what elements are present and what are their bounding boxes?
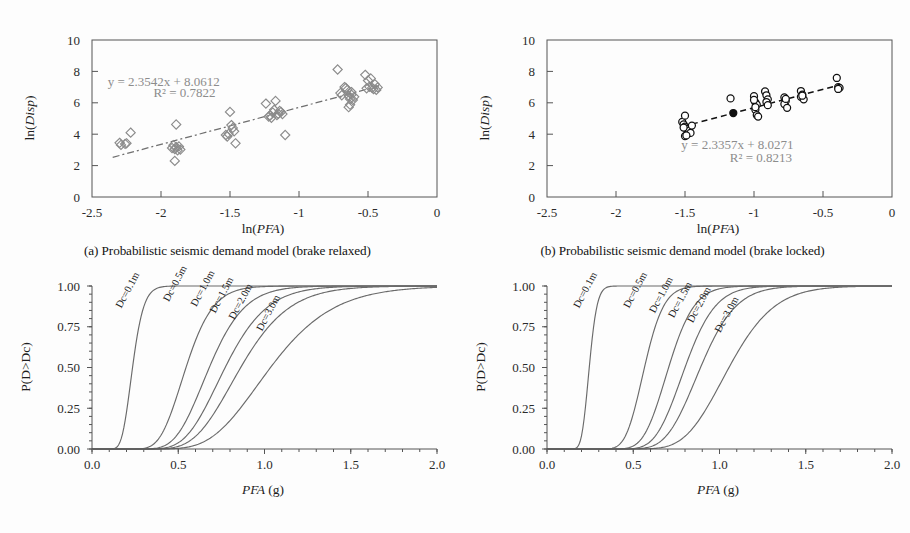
- scatter-marker-circle: [799, 92, 806, 99]
- x-tick-label: -1: [294, 205, 305, 220]
- panel-b-x-ticklabels: -2.5-2-1.5-1-0.50: [537, 205, 896, 220]
- panel-b-plot-frame: [547, 40, 892, 197]
- x-tick-label: 0.0: [539, 457, 555, 472]
- y-tick-label: 1.00: [512, 279, 535, 294]
- panel-a-y-ticklabels: 0246810: [67, 33, 81, 205]
- x-tick-label: 1.0: [711, 457, 727, 472]
- y-tick-label: 6: [529, 95, 536, 110]
- fragility-curve: [547, 286, 892, 449]
- y-tick-label: 0.00: [512, 442, 535, 457]
- panel-a-plot-frame: [92, 40, 437, 197]
- fragility-curve: [547, 286, 892, 449]
- x-tick-label: 0.0: [84, 457, 100, 472]
- panel-a-x-axis-title: ln(PFA): [242, 221, 285, 236]
- scatter-marker-circle: [751, 96, 758, 103]
- y-tick-label: 2: [529, 158, 536, 173]
- y-tick-label: 0.25: [57, 401, 80, 416]
- scatter-marker-diamond: [172, 120, 181, 129]
- x-tick-label: 0: [889, 205, 896, 220]
- panel-b-data-points: [679, 74, 843, 139]
- x-tick-label: 1.5: [798, 457, 814, 472]
- scatter-marker-diamond: [225, 107, 234, 116]
- x-tick-label: -1.5: [675, 205, 696, 220]
- panel-c-x-ticklabels: 0.00.51.01.52.0: [84, 457, 445, 472]
- panel-b-regression-line: [682, 85, 839, 127]
- x-tick-label: -1: [749, 205, 760, 220]
- y-tick-label: 8: [74, 64, 81, 79]
- fragility-curve: [547, 286, 892, 449]
- y-tick-label: 0: [74, 190, 81, 205]
- panel-d-fragility-brake-locked: 0.000.250.500.751.00 0.00.51.01.52.0 Dc=…: [455, 266, 910, 533]
- panel-d-chart: 0.000.250.500.751.00 0.00.51.01.52.0 Dc=…: [455, 266, 910, 516]
- y-tick-label: 0: [529, 190, 536, 205]
- figure-grid: 0246810 -2.5-2-1.5-1-0.50 y = 2.3542x + …: [0, 0, 910, 533]
- panel-a-y-axis-title: ln(Disp): [22, 95, 37, 140]
- x-tick-label: 2.0: [884, 457, 900, 472]
- y-tick-label: 4: [529, 127, 536, 142]
- panel-b-psdm-brake-locked: 0246810 -2.5-2-1.5-1-0.50 y = 2.3357x + …: [455, 0, 910, 266]
- panel-d-x-ticklabels: 0.00.51.01.52.0: [539, 457, 900, 472]
- x-tick-label: 0: [434, 205, 441, 220]
- y-tick-label: 0.50: [512, 360, 535, 375]
- x-tick-label: 0.5: [170, 457, 186, 472]
- panel-c-chart: 0.000.250.500.751.00 0.00.51.01.52.0 Dc=…: [0, 266, 455, 516]
- x-tick-label: -2.5: [82, 205, 103, 220]
- panel-c-y-axis-title: P(D>Dc): [18, 342, 33, 392]
- scatter-marker-diamond: [126, 128, 135, 137]
- scatter-marker-circle: [682, 112, 689, 119]
- scatter-marker-diamond: [231, 139, 240, 148]
- panel-c-curve-labels: Dc=0.1mDc=0.5mDc=1.0mDc=1.5mDc=2.0mDc=3.…: [113, 266, 282, 333]
- fragility-curve: [547, 286, 892, 449]
- y-tick-label: 0.50: [57, 360, 80, 375]
- panel-c-y-ticklabels: 0.000.250.500.751.00: [57, 279, 80, 457]
- panel-d-y-ticklabels: 0.000.250.500.751.00: [512, 279, 535, 457]
- y-tick-label: 6: [74, 95, 81, 110]
- x-tick-label: -1.5: [220, 205, 241, 220]
- panel-c-fragility-brake-relaxed: 0.000.250.500.751.00 0.00.51.01.52.0 Dc=…: [0, 266, 455, 533]
- y-tick-label: 0.25: [512, 401, 535, 416]
- x-tick-label: -0.5: [358, 205, 379, 220]
- scatter-marker-circle: [688, 122, 695, 129]
- y-tick-label: 2: [74, 158, 81, 173]
- scatter-marker-diamond: [170, 156, 179, 165]
- fragility-curve: [547, 286, 892, 449]
- scatter-marker-circle-filled: [730, 110, 737, 117]
- panel-a-caption: (a) Probabilistic seismic demand model (…: [0, 243, 455, 259]
- panel-d-x-axis-title: PFA (g): [696, 482, 739, 497]
- y-tick-label: 0.00: [57, 442, 80, 457]
- y-tick-label: 0.75: [57, 319, 80, 334]
- scatter-marker-diamond: [271, 96, 280, 105]
- x-tick-label: -0.5: [813, 205, 834, 220]
- panel-b-r2-annotation: R² = 0.8213: [730, 150, 792, 165]
- panel-d-y-axis-title: P(D>Dc): [473, 342, 488, 392]
- scatter-marker-circle: [752, 104, 759, 111]
- scatter-marker-circle: [835, 85, 842, 92]
- panel-c-x-axis-title: PFA (g): [241, 482, 284, 497]
- panel-a-chart: 0246810 -2.5-2-1.5-1-0.50 y = 2.3542x + …: [0, 0, 455, 243]
- fragility-curve-label: Dc=3.0m: [712, 295, 740, 335]
- scatter-marker-circle: [764, 102, 771, 109]
- scatter-marker-diamond: [281, 130, 290, 139]
- x-tick-label: -2.5: [537, 205, 558, 220]
- panel-d-fragility-curves: [547, 286, 892, 449]
- x-tick-label: -2: [156, 205, 167, 220]
- fragility-curve-label: Dc=0.1m: [571, 270, 599, 310]
- fragility-curve: [547, 286, 892, 449]
- y-tick-label: 10: [67, 33, 80, 48]
- panel-a-r2-annotation: R² = 0.7822: [153, 85, 215, 100]
- x-tick-label: 1.0: [256, 457, 272, 472]
- fragility-curve-label: Dc=0.5m: [621, 270, 649, 310]
- x-tick-label: -2: [611, 205, 622, 220]
- scatter-marker-circle: [755, 113, 762, 120]
- x-tick-label: 0.5: [625, 457, 641, 472]
- panel-d-tickmarks: [542, 286, 892, 454]
- scatter-marker-circle: [680, 124, 687, 131]
- y-tick-label: 8: [529, 64, 536, 79]
- y-tick-label: 1.00: [57, 279, 80, 294]
- fragility-curve-label: Dc=0.5m: [161, 266, 189, 303]
- y-tick-label: 4: [74, 127, 81, 142]
- fragility-curve-label: Dc=0.1m: [113, 270, 141, 310]
- panel-a-psdm-brake-relaxed: 0246810 -2.5-2-1.5-1-0.50 y = 2.3542x + …: [0, 0, 455, 266]
- scatter-marker-diamond: [333, 65, 342, 74]
- scatter-marker-diamond: [261, 99, 270, 108]
